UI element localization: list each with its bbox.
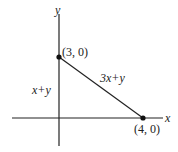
- region-label: x+y: [31, 83, 51, 97]
- x-axis-label: x: [164, 111, 171, 125]
- segment-label: 3x+y: [99, 71, 125, 85]
- segment-line: [59, 57, 143, 118]
- coordinate-diagram: y x (3, 0) (4, 0) 3x+y x+y: [0, 0, 178, 152]
- point-x-intercept: [140, 115, 145, 120]
- point-label-y-intercept: (3, 0): [62, 45, 88, 59]
- y-axis-label: y: [54, 3, 61, 17]
- point-label-x-intercept: (4, 0): [134, 122, 160, 136]
- point-y-intercept: [56, 54, 61, 59]
